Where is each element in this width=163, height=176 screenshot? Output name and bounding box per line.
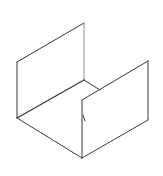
hinge-mark-group: [83, 115, 85, 121]
front-bottom-edge: [82, 120, 148, 158]
floor-back-edge-edge: [17, 80, 84, 118]
diagram-canvas: [0, 0, 163, 176]
front-top-edge: [82, 61, 148, 100]
edge-group: [17, 23, 148, 158]
hinge-mark: [83, 115, 85, 121]
floor-left-front-edge: [17, 118, 82, 158]
u-channel-drawing: [0, 0, 163, 176]
back-top-edge: [17, 23, 84, 62]
floor-inner-edge: [84, 80, 100, 90]
